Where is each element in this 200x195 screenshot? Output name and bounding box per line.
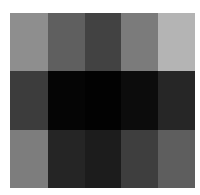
heatmap-cell — [121, 13, 158, 71]
heatmap-cell — [121, 71, 158, 130]
heatmap-cell — [85, 71, 121, 130]
heatmap-cell — [10, 130, 48, 188]
heatmap-cell — [10, 13, 48, 71]
heatmap-cell — [158, 13, 195, 71]
heatmap-cell — [48, 71, 85, 130]
heatmap-cell — [158, 71, 195, 130]
heatmap-cell — [10, 71, 48, 130]
heatmap-cell — [85, 130, 121, 188]
heatmap-cell — [48, 130, 85, 188]
heatmap-grid — [10, 13, 195, 188]
heatmap-cell — [158, 130, 195, 188]
heatmap-cell — [121, 130, 158, 188]
heatmap-cell — [48, 13, 85, 71]
heatmap-cell — [85, 13, 121, 71]
